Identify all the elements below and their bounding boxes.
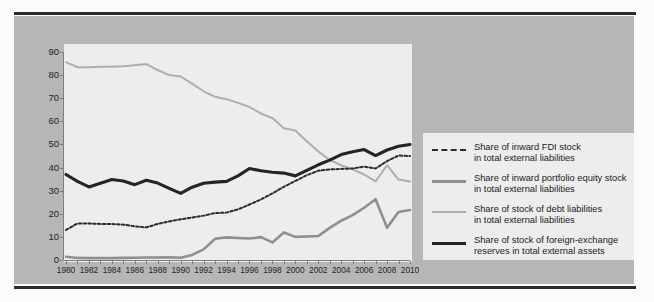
y-tick-label: 90 (33, 47, 59, 57)
x-tick-mark (295, 261, 296, 264)
chart-panel: 0102030405060708090 19801982198419861988… (14, 16, 634, 284)
x-tick-mark (181, 261, 182, 264)
x-tick-mark (227, 261, 228, 264)
y-tick-label: 30 (33, 186, 59, 196)
x-tick-mark (89, 261, 90, 264)
x-axis-line (64, 260, 410, 261)
legend-swatch (432, 211, 466, 213)
y-tick-mark (60, 98, 63, 99)
x-tick-mark (249, 261, 250, 264)
series-line (66, 62, 410, 181)
top-rule (14, 12, 636, 15)
legend-swatch (432, 242, 466, 245)
y-tick-mark (60, 260, 63, 261)
legend-label: Share of stock of foreign-exchangereserv… (474, 235, 646, 258)
x-tick-mark (284, 261, 285, 264)
y-tick-mark (60, 191, 63, 192)
x-tick-mark (192, 261, 193, 264)
y-tick-mark (60, 214, 63, 215)
x-tick-mark (318, 261, 319, 264)
x-tick-mark (307, 261, 308, 264)
y-tick-mark (60, 144, 63, 145)
y-tick-label: 60 (33, 116, 59, 126)
x-tick-mark (158, 261, 159, 264)
x-tick-mark (364, 261, 365, 264)
legend-label: Share of stock of debt liabilitiesin tot… (474, 204, 646, 227)
x-tick-label: 2010 (390, 266, 430, 275)
y-tick-mark (60, 168, 63, 169)
y-tick-mark (60, 121, 63, 122)
legend: Share of inward FDI stockin total extern… (423, 133, 634, 260)
series-line (66, 144, 410, 193)
x-tick-mark (135, 261, 136, 264)
legend-label-line2: in total external liabilities (474, 153, 646, 164)
series-line (66, 199, 410, 258)
legend-label-line1: Share of stock of foreign-exchange (474, 235, 646, 246)
x-tick-mark (77, 261, 78, 264)
x-tick-mark (410, 261, 411, 264)
y-tick-mark (60, 75, 63, 76)
legend-label: Share of inward FDI stockin total extern… (474, 142, 646, 165)
figure: 0102030405060708090 19801982198419861988… (0, 0, 654, 302)
legend-label-line2: in total external liabilities (474, 184, 646, 195)
x-tick-mark (100, 261, 101, 264)
legend-label: Share of inward portfolio equity stockin… (474, 173, 646, 196)
legend-swatch (432, 180, 466, 183)
x-tick-mark (204, 261, 205, 264)
legend-label-line2: in total external liabilities (474, 215, 646, 226)
x-tick-mark (341, 261, 342, 264)
bottom-rule (14, 286, 636, 289)
y-tick-mark (60, 237, 63, 238)
x-tick-mark (215, 261, 216, 264)
x-tick-mark (376, 261, 377, 264)
legend-label-line2: reserves in total external assets (474, 246, 646, 257)
y-tick-label: 50 (33, 139, 59, 149)
y-tick-label: 20 (33, 209, 59, 219)
plot-area (64, 44, 412, 262)
y-tick-label: 40 (33, 163, 59, 173)
legend-label-line1: Share of inward portfolio equity stock (474, 173, 646, 184)
x-tick-mark (66, 261, 67, 264)
y-tick-label: 80 (33, 70, 59, 80)
x-tick-mark (353, 261, 354, 264)
legend-swatch (432, 149, 466, 151)
legend-label-line1: Share of stock of debt liabilities (474, 204, 646, 215)
y-tick-label: 0 (33, 255, 59, 265)
x-tick-mark (123, 261, 124, 264)
x-tick-mark (169, 261, 170, 264)
x-tick-mark (146, 261, 147, 264)
x-tick-mark (238, 261, 239, 264)
y-tick-mark (60, 52, 63, 53)
y-axis-line (63, 52, 64, 260)
y-tick-label: 10 (33, 232, 59, 242)
legend-label-line1: Share of inward FDI stock (474, 142, 646, 153)
x-tick-mark (272, 261, 273, 264)
x-tick-mark (330, 261, 331, 264)
series-line (66, 156, 410, 230)
plot-svg (64, 44, 412, 262)
x-tick-mark (112, 261, 113, 264)
x-tick-mark (261, 261, 262, 264)
x-tick-mark (387, 261, 388, 264)
x-tick-mark (399, 261, 400, 264)
y-tick-label: 70 (33, 93, 59, 103)
